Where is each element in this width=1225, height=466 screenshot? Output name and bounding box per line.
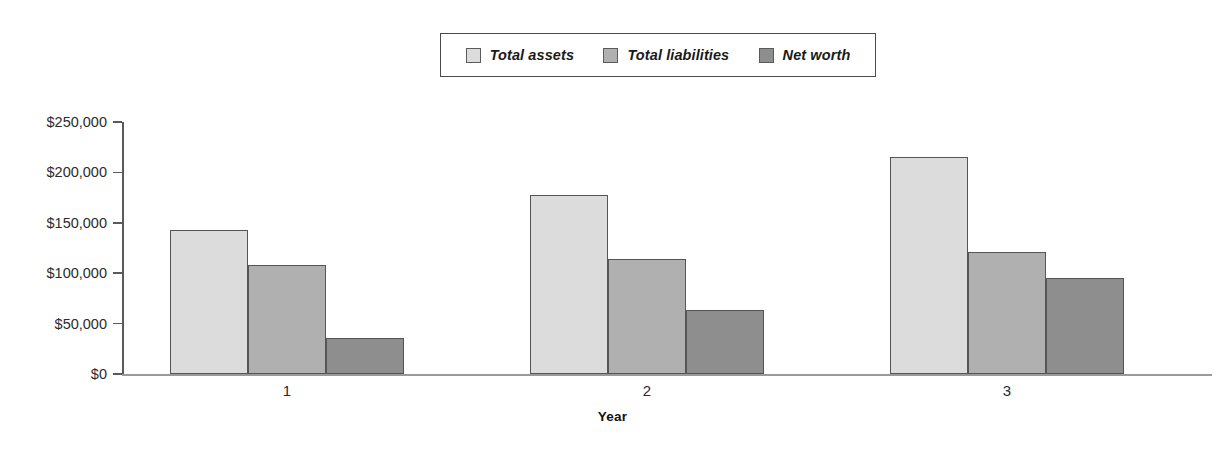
- bar: [530, 195, 608, 374]
- y-axis-line: [122, 122, 124, 375]
- y-axis-tick-label: $100,000: [47, 265, 107, 281]
- bar: [686, 310, 764, 375]
- bar: [968, 252, 1046, 374]
- bar: [326, 338, 404, 374]
- x-axis-title: Year: [0, 409, 1225, 424]
- x-axis-category-label: 2: [643, 382, 651, 399]
- y-axis-tick-label: $150,000: [47, 215, 107, 231]
- bar-chart: Total assets Total liabilities Net worth…: [0, 0, 1225, 466]
- y-axis-tick: [113, 222, 122, 224]
- y-axis-tick: [113, 373, 122, 375]
- bar: [1046, 278, 1124, 374]
- y-axis-tick-label: $250,000: [47, 114, 107, 130]
- y-axis-tick-label: $200,000: [47, 164, 107, 180]
- y-axis-tick-label: $50,000: [55, 316, 107, 332]
- bar: [890, 157, 968, 374]
- x-axis-line: [122, 374, 1212, 376]
- y-axis-tick: [113, 272, 122, 274]
- bar: [608, 259, 686, 374]
- y-axis-tick: [113, 121, 122, 123]
- x-axis-category-label: 3: [1003, 382, 1011, 399]
- y-axis-tick-label: $0: [91, 366, 107, 382]
- y-axis-tick: [113, 172, 122, 174]
- x-axis-category-label: 1: [283, 382, 291, 399]
- y-axis-tick: [113, 323, 122, 325]
- plot-area: $250,000$200,000$150,000$100,000$50,000$…: [0, 0, 1225, 466]
- bar: [248, 265, 326, 374]
- bar: [170, 230, 248, 374]
